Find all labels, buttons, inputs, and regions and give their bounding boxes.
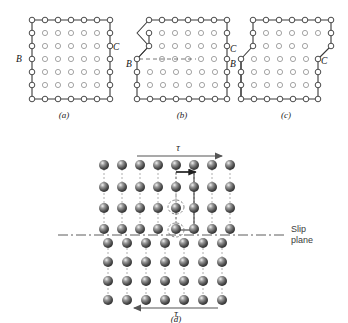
panel-a: B C (a) (16, 17, 120, 120)
panel-c-label-C: C (321, 56, 328, 66)
slip-plane-label-line2: plane (291, 235, 313, 245)
figure-container: B C (a) (0, 0, 348, 323)
slip-plane-label-line1: Slip (291, 224, 306, 234)
crystal-slip-figure: B C (a) (0, 0, 348, 323)
panel-d-bonds-lower (108, 240, 222, 300)
panel-a-label-C: C (113, 42, 120, 52)
panel-c: B C (c) (230, 17, 334, 120)
panel-d: τ (58, 142, 313, 323)
panel-d-caption: (d) (171, 314, 182, 323)
panel-c-caption: (c) (281, 110, 291, 120)
panel-b: B C (b) (126, 17, 237, 120)
panel-b-caption: (b) (177, 110, 188, 120)
panel-d-bonds-upper (104, 165, 230, 230)
tau-label-top: τ (176, 142, 180, 153)
panel-c-interior-atoms (251, 30, 320, 87)
panel-c-label-B: B (230, 59, 236, 69)
panel-d-atoms-upper (99, 160, 235, 234)
panel-a-interior-atoms (42, 30, 99, 87)
panel-a-caption: (a) (59, 110, 70, 120)
panel-b-label-B: B (126, 59, 132, 69)
panel-b-label-C: C (230, 44, 237, 54)
panel-a-label-B: B (16, 54, 22, 64)
